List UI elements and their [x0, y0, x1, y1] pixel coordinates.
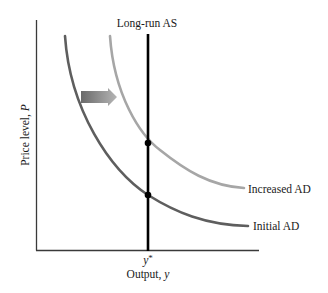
y-axis-label: Price level, P	[19, 104, 32, 166]
new-equilibrium-dot	[145, 140, 152, 147]
x-axis-label: Output, y	[127, 268, 171, 281]
initial-equilibrium-dot	[145, 192, 152, 199]
increased-ad-curve	[110, 36, 244, 188]
diagram-canvas: Long-run AS Increased AD Initial AD y* O…	[0, 0, 328, 293]
shift-right-arrow-icon	[81, 88, 117, 106]
long-run-as-label: Long-run AS	[117, 17, 177, 30]
y-star-tick-label: y*	[142, 253, 153, 267]
initial-ad-label: Initial AD	[253, 220, 299, 232]
ad-as-diagram: Long-run AS Increased AD Initial AD y* O…	[0, 0, 328, 293]
increased-ad-label: Increased AD	[248, 183, 311, 195]
initial-ad-curve	[65, 36, 248, 226]
